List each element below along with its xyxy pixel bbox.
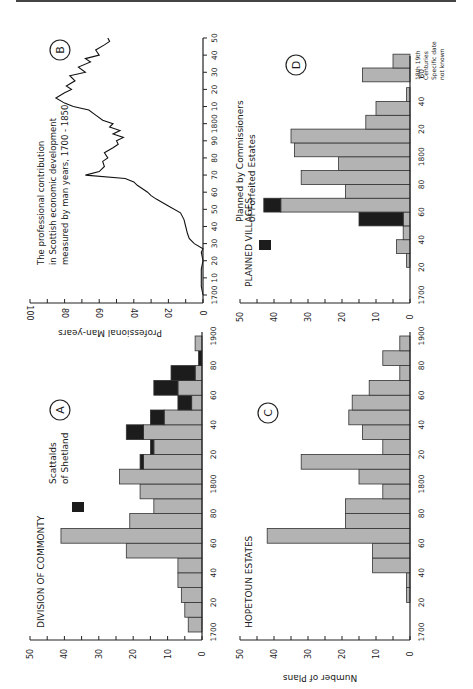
- legend-label: Planned by Commissioners: [235, 100, 245, 222]
- time-tick-label: 90: [210, 136, 219, 146]
- bar: [144, 454, 202, 469]
- time-tick-label: 1800: [417, 474, 426, 493]
- bar: [301, 454, 410, 469]
- time-tick-label: 30: [210, 239, 219, 249]
- bar: [383, 351, 410, 366]
- extra-category-label: 18th 19th: [414, 50, 421, 80]
- bar: [373, 558, 410, 573]
- value-tick-label: 0: [406, 314, 415, 319]
- bar: [119, 469, 202, 484]
- value-tick-label: 10: [372, 649, 381, 659]
- time-tick-label: 20: [417, 124, 426, 134]
- value-axis-title: Number of Plans: [282, 673, 357, 683]
- time-tick-label: 80: [210, 153, 219, 163]
- time-tick-label: 80: [417, 509, 426, 519]
- time-tick-label: 50: [210, 204, 219, 214]
- value-tick-label: 60: [94, 308, 103, 318]
- time-tick-label: 20: [210, 256, 219, 266]
- time-tick-label: 80: [209, 361, 218, 371]
- time-tick-label: 1900: [417, 326, 426, 345]
- highlight-bar: [178, 395, 192, 410]
- time-tick-label: 60: [210, 187, 219, 197]
- value-tick-label: 10: [164, 649, 173, 659]
- bar: [267, 528, 410, 543]
- bar: [345, 184, 410, 198]
- bar: [192, 395, 202, 410]
- time-tick-label: 40: [417, 420, 426, 430]
- value-tick-label: 20: [338, 312, 347, 322]
- time-tick-label: 1800: [417, 147, 426, 166]
- value-axis-title: Professional Man-years: [58, 328, 162, 338]
- value-tick-label: 40: [60, 649, 69, 659]
- time-tick-label: 20: [210, 84, 219, 94]
- chart-a: 010203040501700204060801800204060801900D…: [26, 326, 218, 659]
- bar: [400, 336, 410, 351]
- panel-letter: B: [54, 46, 67, 54]
- highlight-bar: [264, 198, 281, 212]
- legend-swatch: [259, 240, 271, 250]
- bar: [130, 514, 202, 529]
- value-tick-label: 30: [304, 649, 313, 659]
- time-tick-label: 40: [417, 96, 426, 106]
- time-tick-label: 80: [417, 361, 426, 371]
- bar: [294, 143, 410, 157]
- time-tick-label: 60: [417, 207, 426, 217]
- chart-b: 0204060801001700102030405060708090180010…: [25, 33, 219, 338]
- bar: [154, 499, 202, 514]
- extra-category-label: not known: [438, 48, 445, 80]
- time-tick-label: 20: [417, 597, 426, 607]
- bar: [154, 440, 202, 455]
- time-tick-label: 1700: [417, 622, 426, 641]
- time-tick-label: 40: [209, 420, 218, 430]
- bar: [291, 129, 410, 143]
- legend-label: of Shetland: [60, 433, 70, 484]
- extra-category-label: Specific date: [430, 41, 438, 80]
- bar: [396, 240, 410, 254]
- value-tick-label: 0: [406, 651, 415, 656]
- legend-label: of Forfeited Estates: [247, 134, 257, 222]
- bar: [144, 425, 202, 440]
- bar: [345, 499, 410, 514]
- bar: [195, 336, 202, 351]
- value-tick-label: 40: [129, 308, 138, 318]
- value-tick-label: 0: [198, 310, 207, 315]
- time-tick-label: 1800: [210, 114, 219, 133]
- time-tick-label: 40: [210, 221, 219, 231]
- highlight-bar: [140, 454, 143, 469]
- value-tick-label: 50: [236, 649, 245, 659]
- bar: [362, 425, 410, 440]
- chart-title-line: in Scottish economic development: [48, 117, 58, 265]
- value-tick-label: 50: [236, 312, 245, 322]
- time-tick-label: 1800: [209, 474, 218, 493]
- time-tick-label: 80: [209, 509, 218, 519]
- bar: [178, 558, 202, 573]
- value-tick-label: 100: [25, 305, 34, 320]
- time-tick-label: 20: [209, 449, 218, 459]
- value-tick-label: 40: [270, 649, 279, 659]
- bar: [195, 366, 202, 381]
- bar: [126, 543, 202, 558]
- chart-title-line: measured by man years, 1700 - 1850: [60, 105, 70, 265]
- time-tick-label: 1700: [209, 622, 218, 641]
- data-line: [56, 38, 203, 295]
- bar: [383, 484, 410, 499]
- highlight-bar: [154, 380, 178, 395]
- extra-category-label: Centuries: [422, 51, 429, 80]
- bar: [366, 115, 410, 129]
- time-tick-label: 60: [209, 538, 218, 548]
- bar: [140, 484, 202, 499]
- value-tick-label: 20: [163, 308, 172, 318]
- value-tick-label: 10: [372, 312, 381, 322]
- bar: [339, 157, 410, 171]
- time-tick-label: 60: [417, 390, 426, 400]
- value-tick-label: 40: [270, 312, 279, 322]
- chart-title: DIVISION OF COMMONTY: [36, 515, 46, 628]
- time-tick-label: 20: [209, 597, 218, 607]
- highlight-bar: [150, 410, 164, 425]
- bar: [178, 380, 202, 395]
- bar: [403, 212, 410, 226]
- time-tick-label: 1900: [209, 326, 218, 345]
- bar: [352, 395, 410, 410]
- bar: [383, 440, 410, 455]
- time-tick-label: 20: [417, 449, 426, 459]
